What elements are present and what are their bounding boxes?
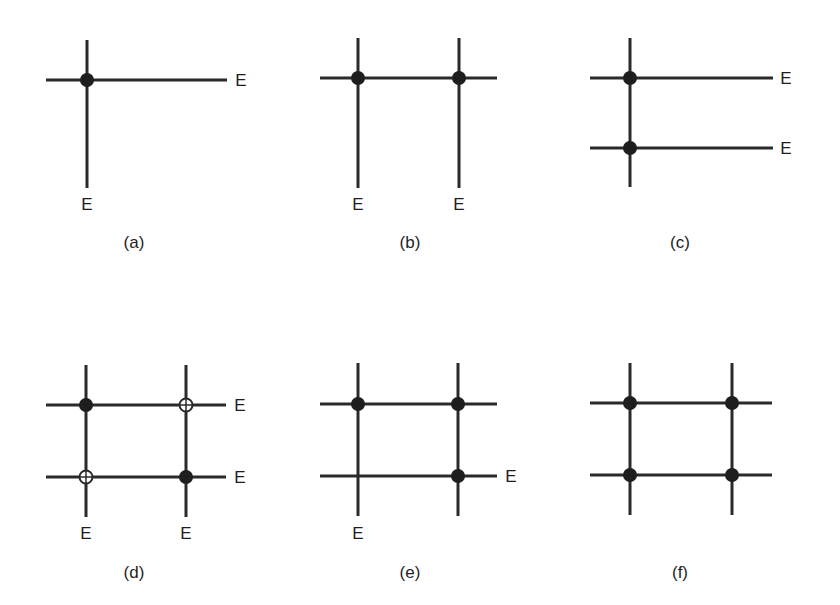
open-crossed-node-icon (80, 471, 93, 484)
edge-label: E (80, 524, 91, 543)
panel-caption: (d) (124, 563, 145, 582)
filled-node-icon (725, 396, 739, 410)
filled-node-icon (725, 468, 739, 482)
panel-caption: (a) (124, 233, 145, 252)
open-crossed-node-icon (180, 399, 193, 412)
panel-caption: (b) (400, 233, 421, 252)
panel-c: EE(c) (590, 38, 792, 252)
edge-label: E (505, 467, 516, 486)
panel-caption: (f) (672, 563, 688, 582)
edge-label: E (352, 524, 363, 543)
panel-b: EE(b) (320, 38, 497, 252)
filled-node-icon (623, 396, 637, 410)
filled-node-icon (452, 71, 466, 85)
edge-label: E (453, 195, 464, 214)
edge-label: E (180, 524, 191, 543)
edge-label: E (234, 468, 245, 487)
filled-node-icon (623, 71, 637, 85)
filled-node-icon (623, 141, 637, 155)
filled-node-icon (351, 71, 365, 85)
lattice-diagram-figure: EE(a)EE(b)EE(c)EEEE(d)EE(e)(f) (0, 0, 840, 605)
filled-node-icon (80, 73, 94, 87)
filled-node-icon (351, 397, 365, 411)
edge-label: E (81, 195, 92, 214)
panel-e: EE(e) (320, 363, 517, 582)
panel-d: EEEE(d) (46, 365, 246, 582)
panel-a: EE(a) (46, 40, 247, 252)
filled-node-icon (179, 470, 193, 484)
edge-label: E (780, 69, 791, 88)
panel-caption: (c) (670, 233, 690, 252)
edge-label: E (780, 139, 791, 158)
panel-f: (f) (590, 363, 772, 582)
filled-node-icon (451, 469, 465, 483)
filled-node-icon (79, 398, 93, 412)
edge-label: E (234, 396, 245, 415)
panel-caption: (e) (400, 563, 421, 582)
filled-node-icon (451, 397, 465, 411)
edge-label: E (352, 195, 363, 214)
edge-label: E (235, 71, 246, 90)
filled-node-icon (623, 468, 637, 482)
